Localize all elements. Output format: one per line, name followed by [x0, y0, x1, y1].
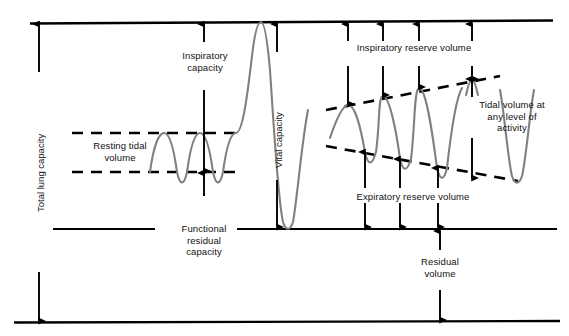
- lung-volumes-diagram: Total lung capacity Inspiratory capacity…: [0, 0, 569, 336]
- label-inspiratory-capacity: Inspiratory capacity: [161, 50, 249, 73]
- label-expiratory-reserve-volume: Expiratory reserve volume: [330, 191, 496, 203]
- falling-trough-dashed-line: [326, 146, 518, 181]
- label-resting-tidal-volume: Resting tidal volume: [76, 140, 164, 163]
- label-residual-volume: Residual volume: [396, 256, 484, 279]
- label-tidal-volume-any-level: Tidal volume at any level of activity: [462, 99, 562, 134]
- label-functional-residual-capacity: Functional residual capacity: [160, 223, 248, 258]
- total-lung-capacity-line: [30, 21, 553, 24]
- label-inspiratory-reserve-volume: Inspiratory reserve volume: [331, 42, 497, 54]
- label-vital-capacity: Vital capacity: [273, 112, 285, 168]
- residual-baseline-line: [14, 321, 560, 323]
- label-total-lung-capacity: Total lung capacity: [35, 134, 47, 212]
